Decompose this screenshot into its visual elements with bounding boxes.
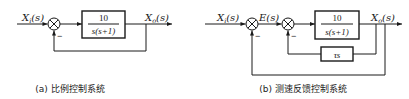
plant-numerator-a: 10 xyxy=(99,13,109,23)
tach-block-label: τs xyxy=(334,50,341,60)
plant-numerator-b: 10 xyxy=(333,13,343,23)
output-label-b: Xo(s) xyxy=(370,12,395,25)
tach-feedback-block-b: τs xyxy=(321,47,353,61)
output-label-a: Xo(s) xyxy=(144,12,169,25)
plant-denominator-b: s(s+1) xyxy=(325,27,349,37)
summing-junction-icon xyxy=(282,18,294,30)
diagram-b-tachometer-feedback-control: Xi(s) − E(s) − 10 s(s+1) Xo(s) xyxy=(205,11,402,94)
block-diagrams: Xi(s) − 10 s(s+1) Xo(s) (a) 比例控制系统 Xi(s) xyxy=(0,0,409,99)
plant-block-a: 10 s(s+1) xyxy=(82,11,125,38)
input-label-b: Xi(s) xyxy=(216,12,239,25)
inner-feedback-sign-b: − xyxy=(291,31,296,41)
input-label-a: Xi(s) xyxy=(21,12,44,25)
feedback-sign-a: − xyxy=(57,31,62,41)
plant-block-b: 10 s(s+1) xyxy=(315,11,359,39)
diagram-a-proportional-control: Xi(s) − 10 s(s+1) Xo(s) (a) 比例控制系统 xyxy=(17,11,172,94)
summing-junction-icon xyxy=(48,18,60,30)
summing-junction-icon xyxy=(246,18,258,30)
plant-denominator-a: s(s+1) xyxy=(92,26,116,36)
caption-a: (a) 比例控制系统 xyxy=(35,83,104,94)
error-label-b: E(s) xyxy=(258,12,279,23)
caption-b: (b) 测速反馈控制系统 xyxy=(259,83,347,94)
outer-feedback-sign-b: − xyxy=(255,31,260,41)
